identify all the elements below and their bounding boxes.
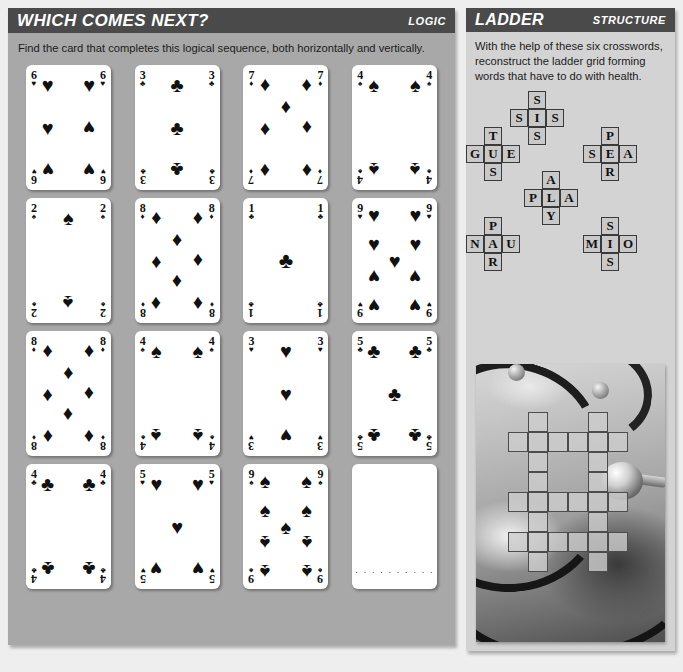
card-pip-area: ♥♥♥	[253, 342, 318, 445]
ladder-grid-cell[interactable]	[548, 492, 568, 512]
ladder-grid-cell[interactable]	[528, 492, 548, 512]
diamonds-pip-icon: ♦	[151, 294, 161, 314]
card-pip-area: ♦♦♦♦♦♦♦♦	[145, 209, 210, 312]
crossword-letter-cell: N	[466, 235, 484, 253]
spades-suit-icon: ♠	[101, 300, 105, 308]
crossword-letter-cell: U	[484, 145, 502, 163]
spades-pip-icon: ♠	[260, 500, 271, 520]
playing-card: 4♣4♣4♣4♣♣♣♣♣	[26, 464, 111, 589]
diamonds-pip-icon: ♦	[63, 362, 73, 382]
ladder-grid-cell[interactable]	[588, 432, 608, 452]
ladder-grid-cell[interactable]	[548, 532, 568, 552]
clubs-pip-icon: ♣	[367, 341, 380, 361]
crossword-letter-cell: S	[601, 253, 619, 271]
diamonds-pip-icon: ♦	[84, 427, 94, 447]
card-pip-area: ♥♥♥♥♥♥	[36, 76, 101, 179]
clubs-pip-icon: ♣	[83, 559, 96, 579]
card-pip-area: ♦♦♦♦♦♦♦♦	[36, 342, 101, 445]
ladder-grid-cell[interactable]	[588, 412, 608, 432]
ladder-grid-cell[interactable]	[508, 492, 528, 512]
spades-pip-icon: ♠	[260, 562, 271, 582]
hearts-pip-icon: ♥	[368, 234, 380, 254]
ladder-grid-cell[interactable]	[508, 532, 528, 552]
ladder-grid-cell[interactable]	[528, 452, 548, 472]
spades-pip-icon: ♠	[260, 533, 271, 553]
diamonds-pip-icon: ♦	[260, 161, 270, 181]
hearts-pip-icon: ♥	[280, 426, 292, 446]
hearts-pip-icon: ♥	[150, 474, 162, 494]
card-slot: 6♥6♥6♥6♥♥♥♥♥♥♥	[14, 65, 123, 190]
ladder-grid-cell[interactable]	[528, 552, 548, 572]
spades-pip-icon: ♠	[193, 341, 204, 361]
card-pip-area: ♣♣♣♣♣	[362, 342, 427, 445]
hearts-pip-icon: ♥	[409, 296, 421, 316]
playing-card: 4♠4♠4♠4♠♠♠♠♠	[135, 331, 220, 456]
clubs-pip-icon: ♣	[388, 384, 401, 404]
ladder-grid-cell[interactable]	[568, 492, 588, 512]
crossword-letter-cell: P	[524, 189, 542, 207]
hearts-pip-icon: ♥	[409, 205, 421, 225]
diamonds-pip-icon: ♦	[42, 340, 52, 360]
ladder-grid-cell[interactable]	[608, 492, 628, 512]
clubs-suit-icon: ♣	[209, 80, 214, 88]
diamonds-suit-icon: ♦	[318, 167, 322, 175]
card-pip-area: ♠♠♠♠	[362, 76, 427, 179]
ladder-grid-cell[interactable]	[528, 472, 548, 492]
crossword-letter-cell: T	[484, 127, 502, 145]
ladder-grid-cell[interactable]	[588, 472, 608, 492]
crossword-letter-cell: P	[484, 217, 502, 235]
hearts-pip-icon: ♥	[83, 75, 95, 95]
card-slot: 7♦7♦7♦7♦♦♦♦♦♦♦♦	[232, 65, 341, 190]
hearts-pip-icon: ♥	[42, 160, 54, 180]
diamonds-pip-icon: ♦	[172, 229, 182, 249]
card-slot: 9♠9♠9♠9♠♠♠♠♠♠♠♠♠♠	[232, 464, 341, 589]
spades-pip-icon: ♠	[301, 471, 312, 491]
logic-title-bar: WHICH COMES NEXT? LOGIC	[8, 8, 455, 33]
card-pip-area: ♠♠♠♠	[145, 342, 210, 445]
spades-pip-icon: ♠	[151, 341, 162, 361]
ladder-grid-cell[interactable]	[568, 532, 588, 552]
logic-category-tag: LOGIC	[408, 15, 446, 27]
crossword-letter-cell: E	[502, 145, 520, 163]
hearts-pip-icon: ♥	[171, 517, 183, 537]
diamonds-pip-icon: ♦	[84, 384, 94, 404]
playing-card: 3♣3♣3♣3♣♣♣♣	[135, 65, 220, 190]
ladder-grid-cell[interactable]	[528, 532, 548, 552]
spades-pip-icon: ♠	[151, 426, 162, 446]
ladder-grid-cell[interactable]	[508, 432, 528, 452]
ladder-grid-cell[interactable]	[588, 512, 608, 532]
hearts-suit-icon: ♥	[318, 346, 323, 354]
ladder-grid-cell[interactable]	[588, 552, 608, 572]
playing-card: 5♣5♣5♣5♣♣♣♣♣♣	[352, 331, 437, 456]
hearts-pip-icon: ♥	[368, 205, 380, 225]
crossword-letter-cell: S	[510, 109, 528, 127]
card-slot: 8♦8♦8♦8♦♦♦♦♦♦♦♦♦	[123, 198, 232, 323]
answer-card-blank[interactable]: · · · · · · · · · ·	[352, 464, 437, 589]
clubs-pip-icon: ♣	[83, 474, 96, 494]
spades-pip-icon: ♠	[281, 517, 292, 537]
ladder-grid-cell[interactable]	[588, 452, 608, 472]
playing-card: 9♥9♥9♥9♥♥♥♥♥♥♥♥♥♥	[352, 198, 437, 323]
card-pip-area: ♣	[253, 209, 318, 312]
hearts-pip-icon: ♥	[280, 341, 292, 361]
ladder-grid-cell[interactable]	[528, 432, 548, 452]
crossword-letter-cell: S	[528, 127, 546, 145]
hearts-suit-icon: ♥	[318, 433, 323, 441]
card-slot: 5♣5♣5♣5♣♣♣♣♣♣	[340, 331, 449, 456]
hearts-suit-icon: ♥	[209, 566, 214, 574]
ladder-grid-cell[interactable]	[528, 412, 548, 432]
ladder-grid-cell[interactable]	[608, 532, 628, 552]
ladder-grid-cell[interactable]	[568, 432, 588, 452]
card-slot: 8♦8♦8♦8♦♦♦♦♦♦♦♦♦	[14, 331, 123, 456]
logic-instructions: Find the card that completes this logica…	[8, 33, 455, 63]
ladder-grid-cell[interactable]	[588, 492, 608, 512]
ladder-grid-cell[interactable]	[588, 532, 608, 552]
ladder-grid-cell[interactable]	[548, 432, 568, 452]
hearts-pip-icon: ♥	[368, 296, 380, 316]
ladder-grid-cell[interactable]	[608, 432, 628, 452]
crossword-letter-cell: A	[619, 145, 637, 163]
ladder-grid-cell[interactable]	[528, 512, 548, 532]
spades-pip-icon: ♠	[301, 500, 312, 520]
diamonds-pip-icon: ♦	[302, 118, 312, 138]
card-slot: 9♥9♥9♥9♥♥♥♥♥♥♥♥♥♥	[340, 198, 449, 323]
